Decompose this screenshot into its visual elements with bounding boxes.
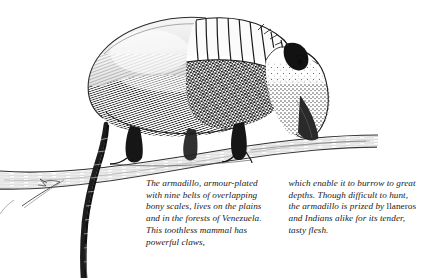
caption-column-right: which enable it to burrow to great depth… bbox=[289, 178, 419, 248]
tail-group bbox=[82, 124, 108, 278]
eye bbox=[297, 59, 302, 64]
head-group bbox=[260, 34, 337, 146]
caption-loanword-llaneros: llaneros bbox=[387, 201, 416, 211]
illustrated-page: The armadillo, armour-plated with nine b… bbox=[0, 0, 423, 278]
caption-column-left: The armadillo, armour-plated with nine b… bbox=[146, 178, 276, 248]
caption-block: The armadillo, armour-plated with nine b… bbox=[146, 178, 418, 248]
caption-text-part-2: and Indians alike for its tender, tasty … bbox=[289, 213, 405, 235]
